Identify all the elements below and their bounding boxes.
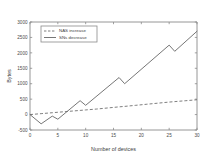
x-tick-label: 20: [139, 133, 145, 138]
x-axis-title: Number of devices: [91, 146, 136, 152]
y-tick-label: 0: [25, 112, 28, 117]
y-tick-label: -500: [18, 128, 28, 133]
chart-svg: -500050010001500200025003000 05101520253…: [0, 0, 208, 166]
y-tick-label: 1000: [17, 81, 28, 86]
x-tick-label: 25: [167, 133, 173, 138]
y-tick-label: 500: [20, 97, 28, 102]
y-tick-label: 1500: [17, 66, 28, 71]
x-tick-label: 0: [29, 133, 32, 138]
series-sns-decrease: [30, 31, 197, 124]
x-tick-label: 10: [83, 133, 89, 138]
legend: NAS increase SNs decrease: [41, 26, 97, 42]
chart-figure: -500050010001500200025003000 05101520253…: [0, 0, 208, 166]
legend-label-nas-increase: NAS increase: [59, 28, 86, 33]
y-tick-label: 2500: [17, 35, 28, 40]
y-tick-label: 3000: [17, 20, 28, 25]
y-axis-title: Bytes: [6, 69, 12, 83]
x-tick-label: 15: [111, 133, 117, 138]
series-nas-increase: [30, 100, 197, 115]
legend-label-sns-decrease: SNs decrease: [59, 35, 87, 40]
x-tick-label: 30: [194, 133, 200, 138]
y-tick-label: 2000: [17, 51, 28, 56]
x-tick-label: 5: [57, 133, 60, 138]
